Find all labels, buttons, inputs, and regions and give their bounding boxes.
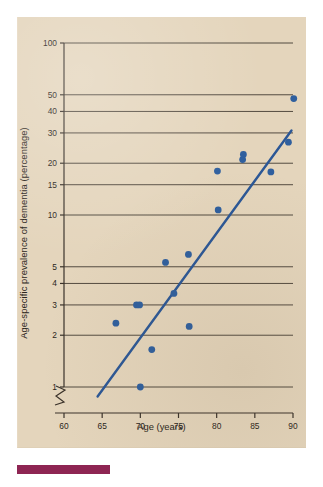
data-point-3 <box>137 384 144 391</box>
y-tick-label-40: 40 <box>48 106 58 116</box>
y-tick-label-5: 5 <box>52 262 57 272</box>
y-tick-label-15: 15 <box>48 180 58 190</box>
data-point-5 <box>162 259 169 266</box>
y-tick-label-20: 20 <box>48 158 58 168</box>
data-point-15 <box>290 95 297 102</box>
scatter-plot: 1234510152030405010060657075808590 <box>17 17 306 448</box>
trend-line <box>98 130 292 396</box>
y-tick-label-2: 2 <box>52 330 57 340</box>
y-tick-label-1: 1 <box>52 382 57 392</box>
data-point-9 <box>214 168 221 175</box>
footer-accent-bar <box>17 465 110 474</box>
y-tick-label-10: 10 <box>48 210 58 220</box>
y-tick-label-3: 3 <box>52 300 57 310</box>
y-tick-label-30: 30 <box>48 128 58 138</box>
data-point-12 <box>240 151 247 158</box>
data-point-4 <box>148 346 155 353</box>
figure-panel: Age-specific prevalence of dementia (per… <box>17 17 306 448</box>
data-point-8 <box>186 323 193 330</box>
data-point-7 <box>185 251 192 258</box>
data-point-13 <box>267 169 274 176</box>
y-tick-label-50: 50 <box>48 90 58 100</box>
data-point-6 <box>171 290 178 297</box>
data-point-2 <box>136 302 143 309</box>
data-point-10 <box>215 207 222 214</box>
y-tick-label-100: 100 <box>43 38 57 48</box>
data-point-14 <box>285 139 292 146</box>
data-point-0 <box>113 320 120 327</box>
y-tick-label-4: 4 <box>52 278 57 288</box>
x-axis-title: Age (years) <box>17 421 306 432</box>
